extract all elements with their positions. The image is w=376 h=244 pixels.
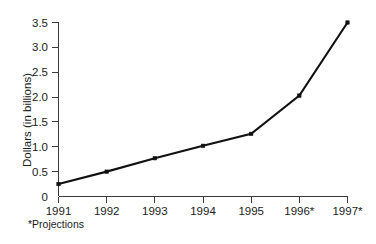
data-point <box>57 182 60 185</box>
x-tick-label: 1994 <box>190 205 216 217</box>
chart-canvas: Dollars (in billions) 3.5 3.0 2.5 2.0 1.… <box>0 0 376 244</box>
y-tick-label: 0.5 <box>32 166 48 178</box>
data-point <box>105 170 108 173</box>
x-tick-label: 1993 <box>142 205 168 217</box>
footnote: *Projections <box>28 218 84 230</box>
data-point <box>298 94 301 97</box>
y-axis-ticks: 3.5 3.0 2.5 2.0 1.5 1.0 0.5 0 <box>32 17 59 203</box>
series-markers <box>57 21 349 186</box>
data-point <box>153 157 156 160</box>
series-line <box>59 23 348 185</box>
y-tick-label: 1.0 <box>32 141 48 153</box>
x-axis-ticks: 1991 1992 1993 1994 1995 1996* 1997* <box>46 197 363 218</box>
data-point <box>249 132 252 135</box>
y-tick-label: 2.0 <box>32 91 48 103</box>
y-tick-label: 3.0 <box>32 41 48 53</box>
data-point <box>201 144 204 147</box>
x-tick-label: 1991 <box>46 205 72 217</box>
y-tick-label: 2.5 <box>32 66 48 78</box>
y-tick-label: 0 <box>42 191 48 203</box>
x-tick-label: 1995 <box>238 205 264 217</box>
y-tick-label: 3.5 <box>32 17 48 29</box>
x-tick-label: 1992 <box>94 205 120 217</box>
x-tick-label: 1997* <box>332 205 363 217</box>
line-chart: Dollars (in billions) 3.5 3.0 2.5 2.0 1.… <box>0 0 376 244</box>
y-tick-label: 1.5 <box>32 116 48 128</box>
x-tick-label: 1996* <box>284 205 315 217</box>
data-point <box>346 21 349 24</box>
